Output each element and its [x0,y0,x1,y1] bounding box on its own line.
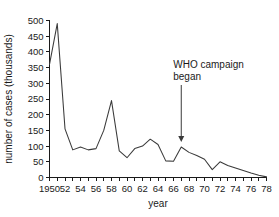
data-series-line [50,24,267,177]
y-tick-label: 50 [33,156,44,167]
x-tick-label: 62 [137,183,148,194]
line-chart: 0501001502002503003504004505001950525456… [0,0,279,217]
x-tick-label: 72 [215,183,226,194]
annotation-arrow-head [178,136,184,142]
x-tick-label: 70 [199,183,210,194]
x-tick-label: 52 [60,183,71,194]
y-tick-label: 500 [28,15,44,26]
x-tick-label: 74 [230,183,241,194]
x-tick-label: 58 [106,183,117,194]
y-tick-label: 100 [28,141,44,152]
y-tick-label: 0 [38,172,43,183]
x-tick-label: 56 [91,183,102,194]
annotation-line-1: WHO campaign [173,59,244,70]
x-tick-label: 76 [246,183,257,194]
chart-container: 0501001502002503003504004505001950525456… [0,0,279,217]
x-axis-title: year [148,198,168,209]
x-tick-label: 54 [75,183,86,194]
y-tick-label: 150 [28,125,44,136]
y-axis-title: number of cases (thousands) [3,34,14,164]
x-tick-label: 66 [168,183,179,194]
x-tick-label: 64 [153,183,164,194]
x-tick-label: 78 [261,183,272,194]
y-tick-label: 200 [28,109,44,120]
x-tick-label: 68 [184,183,195,194]
y-tick-label: 300 [28,78,44,89]
y-tick-label: 250 [28,93,44,104]
annotation-line-2: began [173,71,201,82]
x-tick-label: 1950 [39,183,60,194]
y-tick-label: 350 [28,62,44,73]
y-tick-label: 450 [28,31,44,42]
x-tick-label: 60 [122,183,133,194]
y-tick-label: 400 [28,46,44,57]
